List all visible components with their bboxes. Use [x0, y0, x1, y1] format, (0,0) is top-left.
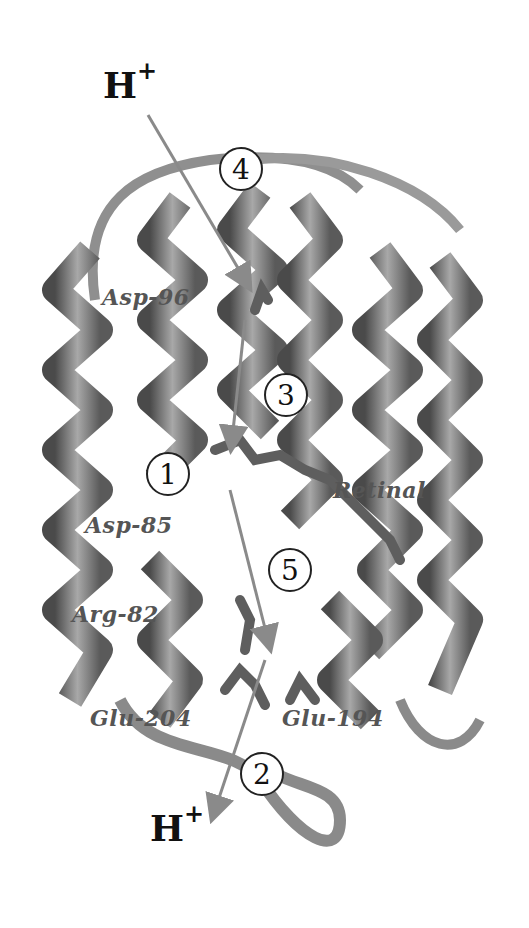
- label-glu-204: Glu-204: [90, 705, 192, 731]
- proton-bottom-label: H+: [150, 805, 204, 849]
- step-1-marker: 1: [146, 452, 190, 496]
- proton-charge: +: [184, 799, 204, 828]
- proton-symbol: H: [150, 807, 184, 849]
- proton-top-label: H+: [103, 62, 157, 106]
- label-arg-82: Arg-82: [72, 601, 159, 627]
- step-3-marker: 3: [264, 373, 308, 417]
- label-asp-85: Asp-85: [85, 512, 173, 538]
- step-5-marker: 5: [268, 548, 312, 592]
- label-glu-194: Glu-194: [282, 705, 384, 731]
- label-asp-96: Asp-96: [102, 284, 190, 310]
- proton-symbol: H: [103, 64, 137, 106]
- protein-diagram: H+ H+ 4 3 1 5 2 Asp-96 Retinal Asp-85 Ar…: [0, 0, 529, 928]
- label-retinal: Retinal: [333, 477, 426, 503]
- proton-charge: +: [137, 56, 157, 85]
- step-2-marker: 2: [240, 752, 284, 796]
- step-4-marker: 4: [219, 147, 263, 191]
